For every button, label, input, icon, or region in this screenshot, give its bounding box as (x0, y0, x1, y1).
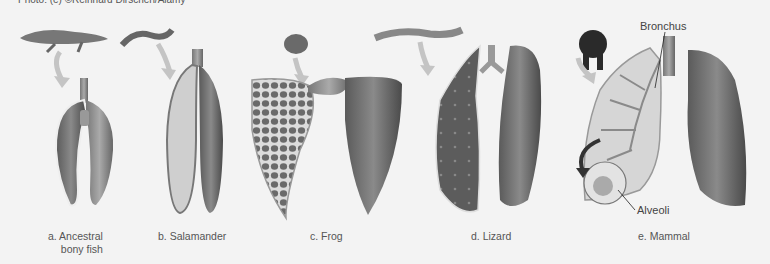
panel-label-a: a. Ancestral bony fish (48, 230, 103, 256)
panel-label-e: e. Mammal (638, 230, 690, 243)
arrow-icon (158, 44, 170, 72)
panel-label-b: b. Salamander (158, 230, 226, 243)
callout-bronchus: Bronchus (640, 20, 686, 32)
frog-icon (284, 34, 308, 54)
arrow-icon (56, 52, 62, 80)
fish-icon (20, 30, 108, 52)
arrow-icon (420, 42, 428, 68)
frog-lung-icon (252, 77, 402, 218)
fish-lung-icon (56, 78, 113, 205)
lung-evolution-illustration (0, 0, 770, 264)
gorilla-icon (579, 30, 607, 70)
lizard-lung-icon (436, 45, 541, 212)
callout-alveoli: Alveoli (637, 204, 669, 216)
lizard-icon (375, 30, 462, 38)
panel-label-d: d. Lizard (471, 230, 511, 243)
salamander-icon (122, 30, 172, 45)
salamander-lung-icon (167, 49, 223, 213)
panel-label-c: c. Frog (310, 230, 343, 243)
